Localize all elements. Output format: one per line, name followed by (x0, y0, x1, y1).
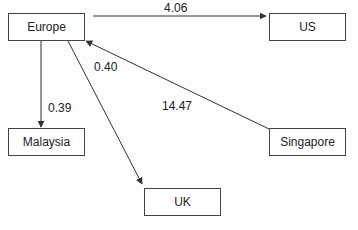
node-singapore: Singapore (269, 128, 346, 156)
node-us-label: US (299, 20, 316, 34)
node-us: US (269, 13, 346, 41)
edge-label-singapore-europe: 14.47 (162, 100, 192, 112)
diagram-canvas: Europe US Malaysia Singapore UK 4.06 0.3… (0, 0, 358, 230)
edge-singapore-europe (86, 41, 269, 129)
node-europe: Europe (8, 13, 85, 41)
edge-label-europe-us: 4.06 (164, 2, 187, 14)
node-europe-label: Europe (27, 20, 66, 34)
node-malaysia-label: Malaysia (23, 135, 70, 149)
node-malaysia: Malaysia (8, 128, 85, 156)
node-uk: UK (144, 188, 221, 216)
edge-label-europe-uk: 0.40 (94, 61, 117, 73)
edge-label-europe-malaysia: 0.39 (48, 102, 71, 114)
node-uk-label: UK (174, 195, 191, 209)
node-singapore-label: Singapore (280, 135, 335, 149)
